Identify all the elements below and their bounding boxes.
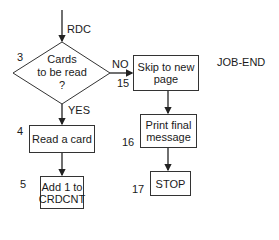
skip-page-box: Skip to new page	[133, 55, 199, 91]
yes-label: YES	[68, 104, 90, 116]
stop-box: STOP	[150, 171, 191, 196]
add-count-box: Add 1 to CRDCNT	[40, 176, 84, 209]
step-number-5: 5	[20, 178, 26, 190]
entry-label: RDC	[67, 23, 91, 35]
step-number-3: 3	[17, 51, 23, 63]
step-number-15: 15	[117, 77, 129, 89]
print-message-box: Print final message	[140, 114, 197, 148]
step-number-4: 4	[17, 125, 23, 137]
step-number-17: 17	[132, 183, 144, 195]
no-label: NO	[112, 58, 129, 70]
exit-label: JOB-END	[217, 56, 265, 68]
decision-text: Cards to be read ?	[27, 53, 97, 92]
read-card-box: Read a card	[29, 125, 95, 153]
step-number-16: 16	[122, 136, 134, 148]
